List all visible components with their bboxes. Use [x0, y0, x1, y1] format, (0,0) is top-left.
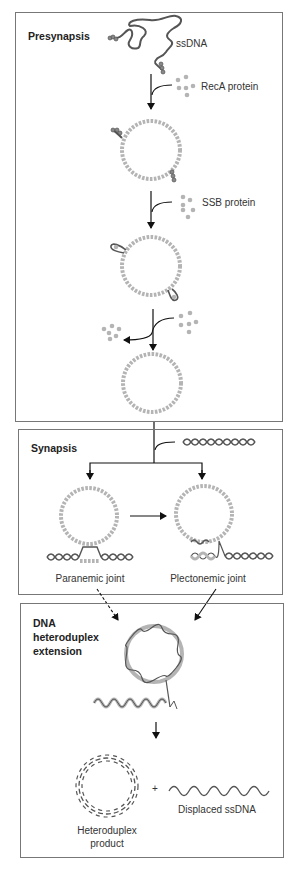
synapsis-panel: Synapsis Paranemic joint: [19, 430, 283, 595]
plectonemic-label: Plectonemic joint: [170, 573, 246, 584]
ssb-released-dots: [102, 324, 122, 342]
displaced-ssdna-label: Displaced ssDNA: [178, 804, 256, 815]
ssdna-tangle: [108, 16, 181, 74]
heteroduplex-circle-extending: [94, 624, 182, 709]
plectonemic-joint-figure: [176, 486, 273, 559]
reca-coated-circle-2: [111, 237, 180, 300]
ssb-protein-dots: [181, 195, 196, 220]
ssdna-label: ssDNA: [176, 38, 207, 49]
paranemic-joint-figure: [47, 488, 133, 561]
reca-filament-circle: [123, 354, 181, 412]
reca-coated-circle-1: [111, 121, 180, 182]
heteroduplex-title-line3: extension: [33, 645, 82, 657]
heteroduplex-title-line1: DNA: [33, 617, 56, 629]
recombination-diagram: Presynapsis ssDNA RecA protein: [0, 0, 299, 874]
reca-label: RecA protein: [201, 81, 258, 92]
reca-protein-dots: [176, 75, 196, 98]
product-label-line1: Heteroduplex: [77, 825, 136, 836]
heteroduplex-product-circle: [76, 755, 138, 817]
dashed-arrow-paranemic: [97, 589, 118, 620]
plus-sign: +: [152, 783, 158, 794]
synapsis-title: Synapsis: [31, 442, 77, 454]
paranemic-label: Paranemic joint: [56, 573, 125, 584]
ssb-incoming-dots: [179, 311, 199, 335]
presynapsis-title: Presynapsis: [28, 30, 90, 42]
heteroduplex-panel: DNA heteroduplex extension Heteroduplex …: [21, 604, 284, 858]
presynapsis-panel: Presynapsis ssDNA RecA protein: [16, 13, 283, 422]
incoming-dsdna: [183, 439, 255, 445]
displaced-ssdna-strand: [169, 787, 269, 796]
arrow-plectonemic: [195, 589, 216, 620]
heteroduplex-title-line2: heteroduplex: [33, 631, 99, 643]
ssb-label: SSB protein: [202, 197, 255, 208]
product-label-line2: product: [90, 838, 124, 849]
